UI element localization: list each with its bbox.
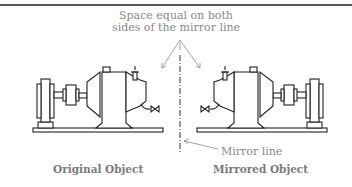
mirrored-object (197, 66, 327, 132)
original-object (33, 66, 163, 132)
mirrored-object-caption: Mirrored Object (213, 163, 308, 175)
original-object-caption: Original Object (53, 163, 143, 175)
annotation-arrows (162, 40, 218, 149)
mirror-diagram (0, 0, 352, 187)
mirror-line-label: Mirror line (221, 145, 282, 158)
